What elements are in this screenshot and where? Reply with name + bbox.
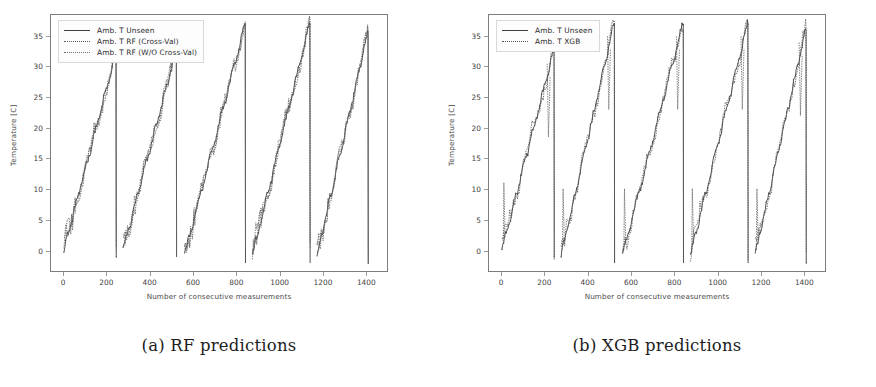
x-tick-label: 400 xyxy=(581,278,595,287)
x-tick-mark xyxy=(150,272,151,276)
x-tick-mark xyxy=(544,272,545,276)
y-tick-label: 35 xyxy=(34,31,43,40)
x-tick-label: 1200 xyxy=(752,278,771,287)
x-tick-mark xyxy=(674,272,675,276)
legend-b: Amb. T Unseen Amb. T XGB xyxy=(496,20,600,52)
legend-entry: Amb. T Unseen xyxy=(502,25,593,36)
legend-label: Amb. T RF (Cross-Val) xyxy=(97,37,179,46)
legend-label: Amb. T XGB xyxy=(535,37,580,46)
x-tick-mark xyxy=(804,272,805,276)
chart-canvas-b xyxy=(489,15,825,271)
x-tick-label: 400 xyxy=(143,278,157,287)
x-tick-label: 0 xyxy=(61,278,66,287)
figure-panel-a: Temperature [C] 05101520253035 020040060… xyxy=(0,0,438,330)
x-tick-mark xyxy=(366,272,367,276)
x-tick-mark xyxy=(761,272,762,276)
legend-label: Amb. T Unseen xyxy=(97,26,155,35)
x-tick-label: 1400 xyxy=(357,278,376,287)
x-tick-mark xyxy=(280,272,281,276)
plot-area-a: Temperature [C] 05101520253035 020040060… xyxy=(0,0,438,330)
y-tick-label: 25 xyxy=(34,92,43,101)
y-tick-label: 0 xyxy=(38,246,43,255)
y-tick-label: 0 xyxy=(476,246,481,255)
legend-entry: Amb. T Unseen xyxy=(64,25,197,36)
legend-label: Amb. T Unseen xyxy=(535,26,593,35)
y-tick-label: 5 xyxy=(38,215,43,224)
y-tick-label: 30 xyxy=(34,62,43,71)
legend-entry: Amb. T RF (W/O Cross-Val) xyxy=(64,47,197,58)
x-tick-mark xyxy=(323,272,324,276)
legend-entry: Amb. T XGB xyxy=(502,36,593,47)
x-tick-label: 200 xyxy=(537,278,551,287)
y-tick-label: 10 xyxy=(34,185,43,194)
y-tick-label: 5 xyxy=(476,215,481,224)
figure-panel-b: Temperature [C] 05101520253035 020040060… xyxy=(438,0,876,330)
y-tick-label: 20 xyxy=(472,123,481,132)
x-tick-mark xyxy=(588,272,589,276)
series-spike-near-start xyxy=(503,183,505,244)
legend-swatch-solid-icon xyxy=(64,30,90,32)
y-tick-label: 10 xyxy=(472,185,481,194)
plot-frame-b xyxy=(488,14,826,272)
plot-area-b: Temperature [C] 05101520253035 020040060… xyxy=(438,0,876,330)
x-tick-mark xyxy=(718,272,719,276)
x-tick-label: 800 xyxy=(229,278,243,287)
legend-swatch-solid-icon xyxy=(502,30,528,32)
legend-a: Amb. T Unseen Amb. T RF (Cross-Val) Amb.… xyxy=(58,20,204,63)
y-tick-label: 25 xyxy=(472,92,481,101)
x-tick-mark xyxy=(236,272,237,276)
legend-swatch-dotted-icon xyxy=(64,41,90,43)
x-tick-label: 200 xyxy=(99,278,113,287)
y-tick-label: 30 xyxy=(472,62,481,71)
y-axis-ticks-a: 05101520253035 xyxy=(20,14,46,272)
y-tick-label: 15 xyxy=(472,154,481,163)
x-axis-label-b: Number of consecutive measurements xyxy=(488,292,826,301)
x-tick-label: 1000 xyxy=(270,278,289,287)
x-tick-mark xyxy=(63,272,64,276)
x-axis-ticks-b: 0200400600800100012001400 xyxy=(488,272,826,294)
legend-swatch-dotted-icon xyxy=(64,52,90,54)
legend-label: Amb. T RF (W/O Cross-Val) xyxy=(97,48,197,57)
caption-b: (b) XGB predictions xyxy=(438,336,876,355)
x-tick-mark xyxy=(631,272,632,276)
x-axis-ticks-a: 0200400600800100012001400 xyxy=(50,272,388,294)
x-tick-label: 0 xyxy=(499,278,504,287)
legend-entry: Amb. T RF (Cross-Val) xyxy=(64,36,197,47)
caption-a: (a) RF predictions xyxy=(0,336,438,355)
x-tick-label: 1200 xyxy=(314,278,333,287)
y-tick-label: 15 xyxy=(34,154,43,163)
legend-swatch-dotted-icon xyxy=(502,41,528,43)
y-tick-label: 20 xyxy=(34,123,43,132)
x-tick-label: 800 xyxy=(667,278,681,287)
y-axis-ticks-b: 05101520253035 xyxy=(458,14,484,272)
figure-page: Temperature [C] 05101520253035 020040060… xyxy=(0,0,876,387)
x-tick-label: 1000 xyxy=(708,278,727,287)
y-axis-label-a: Temperature [C] xyxy=(6,0,20,270)
x-tick-label: 600 xyxy=(624,278,638,287)
x-axis-label-a: Number of consecutive measurements xyxy=(50,292,388,301)
x-tick-label: 600 xyxy=(186,278,200,287)
x-tick-mark xyxy=(193,272,194,276)
y-tick-label: 35 xyxy=(472,31,481,40)
series-line-prediction xyxy=(502,19,806,263)
x-tick-label: 1400 xyxy=(795,278,814,287)
x-tick-mark xyxy=(501,272,502,276)
y-axis-label-b: Temperature [C] xyxy=(444,0,458,270)
x-tick-mark xyxy=(106,272,107,276)
series-spike-near-peak xyxy=(676,36,679,109)
series-spike-near-start xyxy=(624,189,626,250)
